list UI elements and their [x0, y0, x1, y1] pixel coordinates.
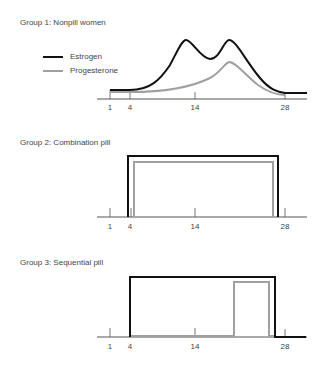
- group3-tick-28: 28: [281, 342, 290, 351]
- group3-tick-1: 1: [108, 342, 112, 351]
- group1-tick-1: 1: [108, 103, 112, 112]
- group3-tick-14: 14: [191, 342, 200, 351]
- legend-progesterone-label: Progesterone: [70, 66, 118, 75]
- group2-tick-1: 1: [108, 222, 112, 231]
- diagram-canvas: [0, 0, 324, 373]
- group2-estrogen-curve: [128, 156, 278, 217]
- group1-tick-28: 28: [281, 103, 290, 112]
- group2-tick-28: 28: [281, 222, 290, 231]
- group1-title: Group 1: Nonpill women: [20, 18, 106, 27]
- group3-estrogen-curve: [130, 277, 306, 337]
- group1-tick-4: 4: [128, 103, 132, 112]
- legend-estrogen-label: Estrogen: [70, 52, 102, 61]
- group3-progesterone-curve: [130, 282, 275, 336]
- group1-tick-14: 14: [191, 103, 200, 112]
- group3-title: Group 3: Sequential pill: [20, 258, 103, 267]
- group3-chart: [97, 277, 307, 337]
- group2-title: Group 2: Combination pill: [20, 138, 110, 147]
- group2-chart: [97, 156, 307, 217]
- group3-tick-4: 4: [128, 342, 132, 351]
- group2-tick-14: 14: [191, 222, 200, 231]
- group2-progesterone-curve: [134, 162, 273, 217]
- group1-estrogen-curve: [110, 40, 307, 93]
- group2-tick-4: 4: [128, 222, 132, 231]
